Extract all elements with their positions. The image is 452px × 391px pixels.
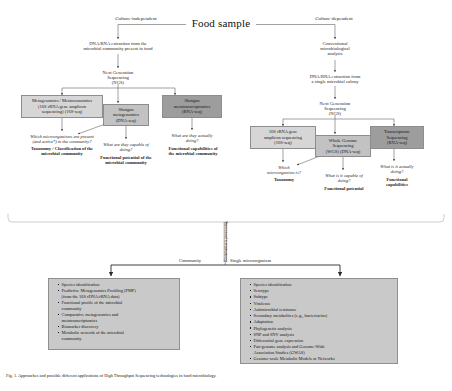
list-item: Differential gene expression [250, 338, 394, 344]
list-item: Serotype [250, 288, 394, 294]
list-item: Comparative metagenomics and metatranscr… [58, 312, 176, 323]
figure-canvas: Food sample Culture-independent Culture-… [0, 0, 452, 391]
list-item: Predictive Metagenomics Profiling (PMP) … [58, 288, 176, 299]
list-item: Virulence [250, 301, 394, 307]
box-16s-amplicon-sequencing[interactable]: 16S rRNA gene amplicon sequencing (16S-s… [250, 126, 316, 149]
label-community: Community [160, 258, 220, 263]
right-outcome-3-answer: Functional capabilities [364, 177, 430, 187]
branch-label-culture-independent: Culture-independent [93, 16, 179, 22]
list-item: Biomarker discovery [58, 324, 176, 330]
list-item: Adaptation [250, 319, 394, 325]
list-item: SNP and SNV analysis [250, 332, 394, 338]
right-outcome-1-answer: Taxonomy [249, 177, 319, 182]
left-outcome-3-question: What are they actually doing? [158, 133, 226, 143]
figure-caption: Fig. 1. Approaches and possible differen… [6, 373, 446, 378]
left-outcome-2-answer: Functional potential of the microbial co… [88, 155, 164, 165]
right-outcome-1-question: Which microorganism is? [249, 165, 319, 175]
right-ngs-text: Next Generation Sequencing (NGS) [305, 101, 365, 116]
box-shotgun-metagenomics[interactable]: Shotgun metagenomics (DNA-seq) [103, 104, 149, 126]
box-metagenomics-metataxonomics[interactable]: Metagenomics / Metataxonomics (16S rRNA … [21, 95, 103, 118]
panel-community-applications: Species identificationPredictive Metagen… [48, 278, 180, 350]
single-application-list: Species identificationSerotypeSubtypeVir… [245, 282, 394, 362]
list-item: Antimicrobial resistance [250, 307, 394, 313]
left-ngs-text: Next Generation Sequencing (NGS) [88, 70, 148, 85]
box-transcriptome-sequencing[interactable]: Transcriptome Sequencing (RNA-seq) [370, 126, 424, 149]
left-outcome-3-answer: Functional capabilities of the microbial… [154, 146, 232, 156]
panel-single-applications: Species identificationSerotypeSubtypeVir… [240, 278, 398, 364]
right-conventional-text: Conventional microbiological analysis [300, 41, 370, 56]
list-item: Functional profile of the microbial comm… [58, 300, 176, 311]
branch-label-culture-dependent: Culture-dependent [292, 16, 376, 22]
left-outcome-2-question: What are they capable of doing? [92, 142, 160, 152]
community-application-list: Species identificationPredictive Metagen… [53, 282, 176, 341]
page-title: Food sample [186, 17, 256, 29]
list-item: Phylogenetic analysis [250, 326, 394, 332]
right-outcome-3-question: What is it actually doing? [364, 164, 430, 174]
list-item: Metabolic network of the microbial commu… [58, 330, 176, 341]
left-extraction-text: DNA/RNA extraction from the microbial co… [53, 41, 183, 51]
list-item: Subtype [250, 294, 394, 300]
box-whole-genome-sequencing[interactable]: Whole Genome Sequencing (WGS) (DNA-seq) [315, 135, 371, 157]
box-shotgun-metatranscriptomics[interactable]: Shotgun metatranscriptomics (RNA-seq) [162, 95, 222, 118]
label-single-microorganism: Single microorganism [230, 258, 312, 263]
list-item: Species identification [250, 282, 394, 288]
list-item: Genome-scale Metabolic Models or Network… [250, 356, 394, 362]
list-item: Species identification [58, 282, 176, 288]
right-extraction-text: DNA/RNA extraction from a single microbi… [286, 74, 384, 84]
list-item: Secondary metabolites (e.g., bacteriocin… [250, 313, 394, 319]
list-item: Pan-genome analysis and Genome-Wide Asso… [250, 344, 394, 355]
bioinformatic-processing-label: Bioinformatic processing [223, 221, 228, 262]
